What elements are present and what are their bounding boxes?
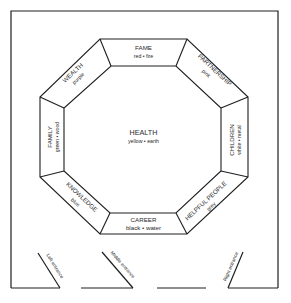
health-title: HEALTH	[130, 128, 158, 137]
health-subtitle: yellow • earth	[128, 138, 159, 144]
area-children: CHILDREN white • metal	[228, 124, 243, 156]
area-wealth: WEALTH purple	[61, 61, 89, 89]
fame-title: FAME	[135, 44, 152, 51]
career-subtitle: black • water	[126, 224, 161, 231]
family-title: FAMILY	[46, 126, 53, 148]
career-title: CAREER	[131, 216, 157, 223]
area-fame: FAME red • fire	[134, 44, 154, 59]
area-career: CAREER black • water	[126, 216, 161, 231]
left-entrance-label: Left entrance	[45, 253, 64, 280]
fame-subtitle: red • fire	[134, 53, 154, 59]
family-subtitle: green • wood	[54, 122, 60, 152]
area-family: FAMILY green • wood	[46, 122, 61, 152]
children-title: CHILDREN	[228, 124, 235, 156]
area-knowledge: KNOWLEDGE blue	[60, 180, 100, 218]
bagua-diagram: FAME red • fire PARTNERSHIP pink CHILDRE…	[0, 0, 291, 303]
area-health: HEALTH yellow • earth	[128, 128, 159, 144]
knowledge-title: KNOWLEDGE	[65, 180, 99, 213]
children-subtitle: white • metal	[236, 125, 242, 155]
left-entrance-label-group: Left entrance	[45, 253, 64, 280]
area-helpful-people: HELPFUL PEOPLE grey	[183, 179, 232, 227]
